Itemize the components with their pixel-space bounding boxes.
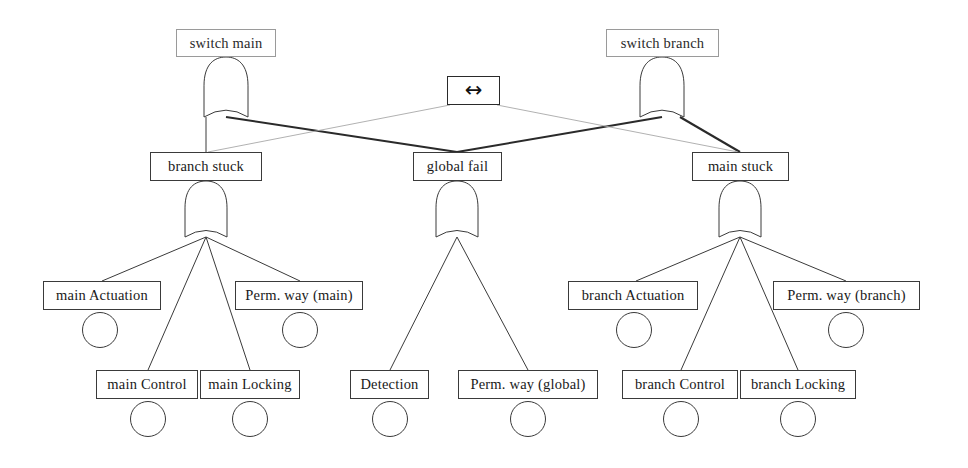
node-perm-way-main[interactable]: Perm. way (main) [235,281,363,310]
node-label: branch Locking [751,377,845,392]
node-branch-control[interactable]: branch Control [622,370,738,399]
node-perm-way-global[interactable]: Perm. way (global) [458,370,598,399]
basic-event-circle-branch-actuation[interactable] [616,312,652,348]
node-branch-locking[interactable]: branch Locking [740,370,856,399]
node-main-control[interactable]: main Control [96,370,198,399]
node-detection[interactable]: Detection [350,370,429,399]
basic-event-circle-main-control[interactable] [130,401,166,437]
basic-event-circle-perm-way-global[interactable] [510,401,546,437]
edge-gate-global-fail-to-detection [390,237,457,370]
edge-gate-global-fail-to-perm_way_global [457,237,528,370]
left-right-arrow-icon: ↔ [465,80,483,101]
edge-symmetry-to-branch_stuck [208,105,450,152]
gate-global-fail [436,181,478,237]
gate-switch-main [204,57,248,117]
edge-gate-branch-stuck-to-main_actuation [102,237,206,281]
node-perm-way-branch[interactable]: Perm. way (branch) [773,281,920,310]
node-main-stuck[interactable]: main stuck [692,152,789,181]
node-label: Perm. way (branch) [787,288,905,303]
node-main-actuation[interactable]: main Actuation [43,281,161,310]
node-branch-stuck[interactable]: branch stuck [150,152,262,181]
edge-gate-switch-branch-to-main_stuck [680,117,740,152]
edge-symmetry-to-main_stuck [497,105,738,152]
edge-gate-branch-stuck-to-perm_way_main [206,237,300,281]
node-switch-branch[interactable]: switch branch [606,29,719,57]
node-global-fail[interactable]: global fail [413,152,502,181]
node-label: Detection [360,377,418,392]
node-label: global fail [427,159,488,174]
basic-event-circle-main-actuation[interactable] [82,312,118,348]
basic-event-circle-perm-way-branch[interactable] [828,312,864,348]
node-label: branch stuck [168,159,244,174]
basic-event-circle-branch-locking[interactable] [780,401,816,437]
gate-switch-branch [640,57,684,117]
node-label: switch main [190,36,263,51]
basic-event-circle-perm-way-main[interactable] [282,312,318,348]
node-label: Perm. way (global) [470,377,585,392]
basic-event-circle-main-locking[interactable] [232,401,268,437]
node-label: branch Control [635,377,725,392]
node-label: switch branch [621,36,705,51]
node-label: main stuck [708,159,773,174]
node-label: main Locking [208,377,291,392]
edge-gate-main-stuck-to-branch_actuation [636,237,740,281]
node-label: Perm. way (main) [245,288,353,303]
node-label: branch Actuation [582,288,685,303]
edge-gate-main-stuck-to-perm_way_branch [740,237,846,281]
fault-tree-diagram: switch mainswitch branch↔branch stuckglo… [0,0,968,468]
node-switch-main[interactable]: switch main [176,29,276,57]
node-branch-actuation[interactable]: branch Actuation [568,281,698,310]
node-label: main Actuation [56,288,148,303]
basic-event-circle-branch-control[interactable] [663,401,699,437]
symmetry-marker-box[interactable]: ↔ [447,76,500,105]
edge-gate-switch-branch-to-global_fail [457,117,662,152]
basic-event-circle-detection[interactable] [372,401,408,437]
gate-main-stuck [719,181,761,237]
edges-group [102,105,846,370]
node-main-locking[interactable]: main Locking [200,370,300,399]
edge-gate-switch-main-to-global_fail [226,117,457,152]
node-label: main Control [107,377,186,392]
gate-branch-stuck [185,181,227,237]
